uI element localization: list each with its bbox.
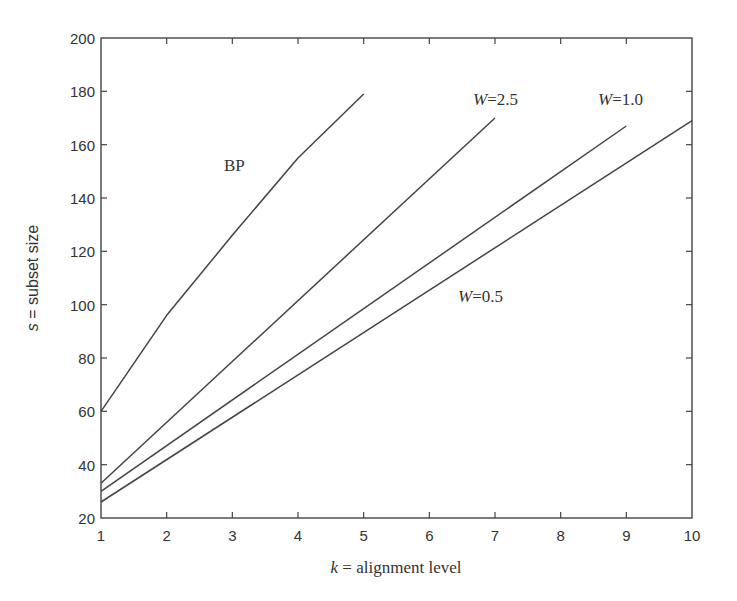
x-tick-label: 4 — [294, 527, 302, 544]
x-tick-label: 1 — [97, 527, 105, 544]
series-label-text: =0.5 — [472, 287, 503, 306]
y-tick-label: 100 — [70, 297, 95, 314]
x-tick-label: 9 — [622, 527, 630, 544]
series-line-w-2-5 — [101, 118, 495, 483]
x-tick-label: 7 — [491, 527, 499, 544]
y-axis-title-text: = subset size — [24, 225, 41, 323]
series-labels: BPW=2.5W=1.0W=0.5 — [224, 90, 643, 306]
y-tick-label: 120 — [70, 243, 95, 260]
series-line-bp — [101, 94, 364, 411]
series-label-text: =1.0 — [612, 90, 643, 109]
x-tick-label: 10 — [684, 527, 701, 544]
series-label-text: =2.5 — [487, 90, 518, 109]
x-tick-label: 6 — [425, 527, 433, 544]
series-line-w-0-5 — [101, 121, 692, 502]
y-tick-label: 140 — [70, 190, 95, 207]
y-tick-label: 160 — [70, 137, 95, 154]
series-label: W=1.0 — [598, 90, 643, 109]
plot-frame — [101, 38, 692, 518]
y-tick-label: 20 — [78, 510, 95, 527]
series-line-w-1-0 — [101, 126, 626, 491]
y-tick-label: 80 — [78, 350, 95, 367]
series-label: BP — [224, 156, 245, 175]
series-layer — [101, 94, 692, 502]
y-tick-label: 180 — [70, 83, 95, 100]
line-chart: 12345678910 20406080100120140160180200 B… — [0, 0, 737, 601]
x-tick-label: 3 — [228, 527, 236, 544]
series-label: W=2.5 — [473, 90, 518, 109]
y-axis-variable: s — [24, 323, 41, 331]
x-axis-title-text: = alignment level — [338, 558, 462, 577]
x-tick-label: 8 — [556, 527, 564, 544]
x-axis-title: k = alignment level — [331, 558, 462, 577]
y-tick-label: 60 — [78, 403, 95, 420]
x-tick-label: 2 — [162, 527, 170, 544]
y-axis-title: s = subset size — [24, 225, 41, 331]
x-tick-label: 5 — [359, 527, 367, 544]
y-tick-label: 40 — [78, 457, 95, 474]
series-label-text: BP — [224, 156, 245, 175]
y-tick-label: 200 — [70, 30, 95, 47]
series-label: W=0.5 — [458, 287, 503, 306]
